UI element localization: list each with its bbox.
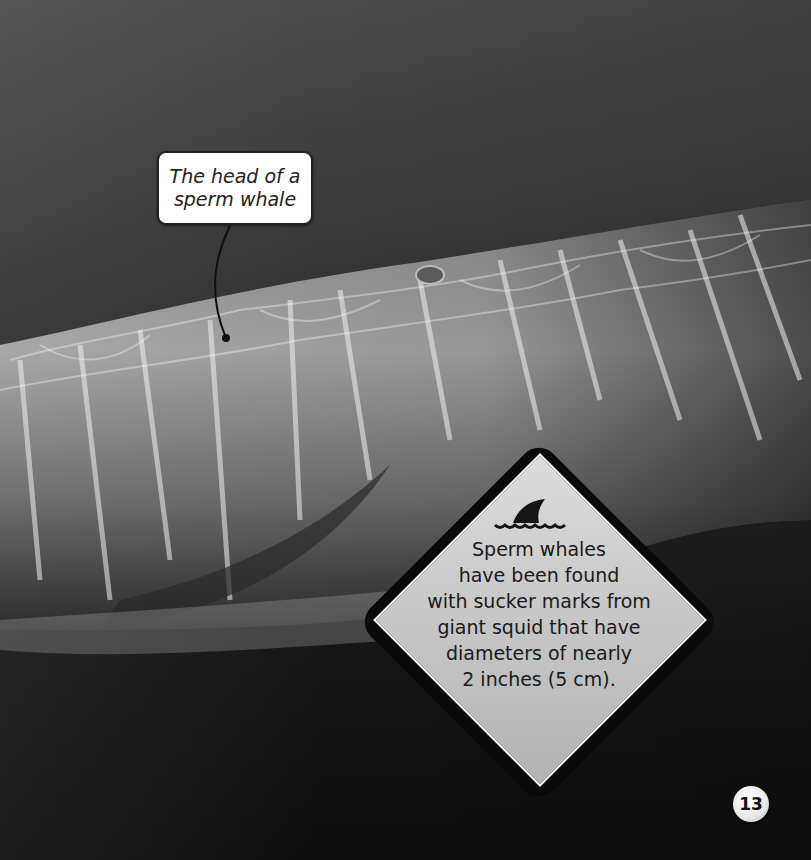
shark-fin-icon xyxy=(493,497,571,533)
callout-label: The head of a sperm whale xyxy=(157,151,313,225)
fact-text: Sperm whales have been found with sucker… xyxy=(357,536,721,692)
callout-text: The head of a sperm whale xyxy=(170,165,301,211)
page-number: 13 xyxy=(739,794,763,814)
page-number-badge: 13 xyxy=(733,786,769,822)
book-page: The head of a sperm whale Sperm whales h… xyxy=(0,0,811,860)
